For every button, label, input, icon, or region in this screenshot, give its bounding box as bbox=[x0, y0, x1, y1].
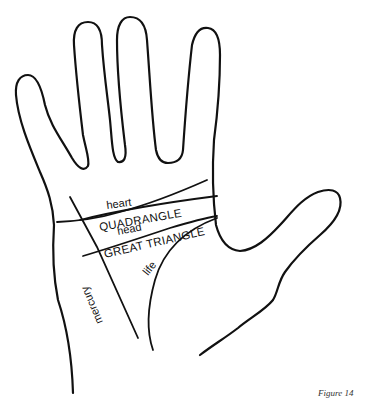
label-mercury: mercury bbox=[78, 284, 105, 326]
label-heart: heart bbox=[106, 196, 133, 211]
hand-outline bbox=[16, 17, 341, 393]
figure-caption: Figure 14 bbox=[318, 388, 353, 398]
palm-diagram: heart QUADRANGLE head GREAT TRIANGLE lif… bbox=[0, 0, 365, 406]
label-life: life bbox=[140, 259, 158, 277]
